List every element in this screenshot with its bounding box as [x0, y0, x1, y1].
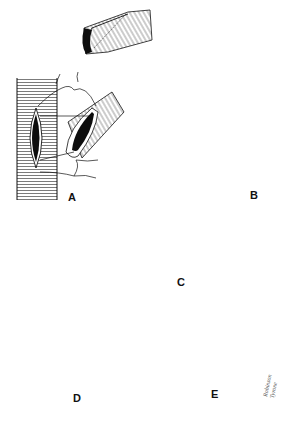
panel-a-vessel-end [82, 10, 152, 54]
panel-a-branch-vessel [66, 92, 124, 158]
panel-label-a: A [68, 192, 76, 203]
panel-label-d: D [73, 393, 81, 404]
panel-label-b: B [250, 190, 258, 201]
anastomosis-figure: A B C D E Robinson Tyrone [0, 0, 302, 426]
panel-label-c: C [177, 277, 185, 288]
panel-a-main-vessel [17, 78, 57, 200]
panel-label-e: E [211, 389, 218, 400]
illustration-drawing [0, 0, 302, 426]
panel-a [17, 10, 152, 200]
